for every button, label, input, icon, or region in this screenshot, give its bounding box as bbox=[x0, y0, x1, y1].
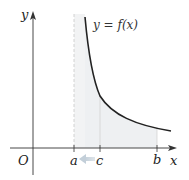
point-a-label: a bbox=[70, 153, 78, 168]
x-axis-label: x bbox=[170, 153, 178, 168]
point-b-label: b bbox=[153, 152, 161, 167]
shaded-strip-a-c bbox=[74, 14, 85, 148]
left-arrow-icon bbox=[79, 154, 95, 164]
improper-integral-diagram: y x O a c b y = f(x) bbox=[0, 0, 189, 180]
point-c-label: c bbox=[96, 153, 104, 168]
origin-label: O bbox=[18, 153, 29, 168]
function-label: y = f(x) bbox=[92, 18, 138, 32]
y-axis-label: y bbox=[20, 7, 29, 22]
